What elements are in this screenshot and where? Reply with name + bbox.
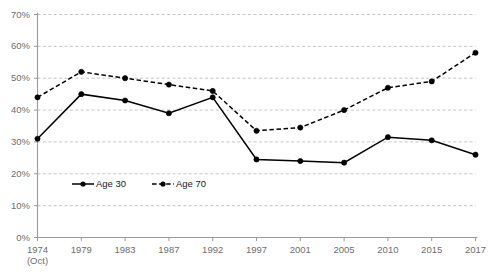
line-chart: 70%60%50%40%30%20%10%0%1974(Oct)19791983…	[0, 0, 498, 277]
x-axis-label-year: 2010	[377, 244, 398, 255]
data-point	[166, 111, 171, 116]
chart-plot-area	[0, 0, 498, 277]
x-axis-label-year: 1992	[202, 244, 223, 255]
data-point	[35, 136, 40, 141]
x-axis-label-year: 1987	[158, 244, 179, 255]
x-axis-label-year: 2017	[465, 244, 486, 255]
data-point	[342, 107, 347, 112]
legend-swatch-marker	[160, 181, 165, 186]
data-point	[123, 76, 128, 81]
data-point	[123, 98, 128, 103]
legend-item-age-70: Age 70	[176, 179, 206, 189]
legend-swatch-marker	[80, 181, 85, 186]
y-axis-label: 30%	[0, 137, 30, 147]
y-axis-label: 70%	[0, 10, 30, 20]
data-point	[79, 92, 84, 97]
x-axis-label-year: 1974	[27, 244, 48, 255]
data-point	[298, 158, 303, 163]
y-axis-label: 40%	[0, 105, 30, 115]
x-axis-label-year: 1997	[246, 244, 267, 255]
y-axis-label: 20%	[0, 169, 30, 179]
series-line-age-70	[38, 53, 476, 131]
data-point	[429, 138, 434, 143]
data-point	[342, 160, 347, 165]
x-axis-label-sublabel: (Oct)	[10, 255, 66, 266]
x-axis-label-year: 1979	[71, 244, 92, 255]
data-point	[79, 69, 84, 74]
data-point	[166, 82, 171, 87]
data-point	[385, 135, 390, 140]
x-axis-label-year: 2001	[290, 244, 311, 255]
data-point	[473, 50, 478, 55]
x-axis-label: 2017	[448, 244, 498, 255]
data-point	[35, 95, 40, 100]
y-axis-label: 60%	[0, 41, 30, 51]
y-axis-label: 50%	[0, 73, 30, 83]
x-axis-label-year: 2005	[334, 244, 355, 255]
y-axis-label: 10%	[0, 201, 30, 211]
y-axis-label: 0%	[0, 233, 30, 243]
data-point	[473, 152, 478, 157]
data-point	[254, 157, 259, 162]
data-point	[298, 125, 303, 130]
data-point	[385, 85, 390, 90]
x-axis-label-year: 2015	[421, 244, 442, 255]
legend-item-age-30: Age 30	[96, 179, 126, 189]
data-point	[254, 128, 259, 133]
data-point	[210, 95, 215, 100]
data-point	[429, 79, 434, 84]
data-point	[210, 88, 215, 93]
x-axis-label-year: 1983	[115, 244, 136, 255]
